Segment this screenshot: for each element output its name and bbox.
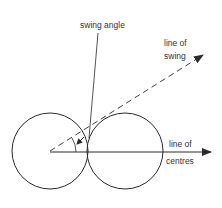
swing-angle-pointer-arrow: [77, 137, 84, 144]
line-of-swing-label-line2: swing: [164, 51, 186, 61]
right-ball-circle: [87, 113, 163, 189]
line-of-swing-label-line1: line of: [164, 38, 187, 48]
line-of-centres-label-line1: line of: [169, 139, 192, 149]
swing-angle-label: swing angle: [80, 20, 125, 30]
diagram-canvas: [0, 0, 222, 208]
line-of-centres-label-line2: centres: [166, 156, 194, 166]
line-of-swing-arrow: [50, 55, 203, 151]
swing-angle-arc: [72, 138, 76, 152]
